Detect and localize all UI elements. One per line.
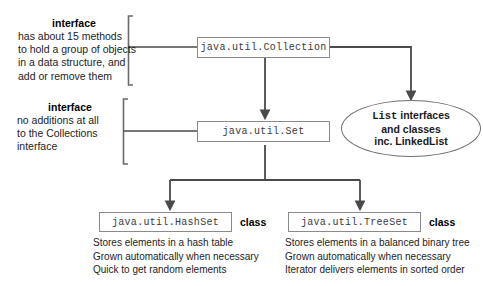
list-cloud-line-2: and classes (381, 123, 441, 136)
node-java-util-collection-label: java.util.Collection (200, 42, 326, 53)
node-java-util-hashset[interactable]: java.util.HashSet (99, 212, 232, 232)
list-cloud-mono-word: List (372, 110, 397, 122)
node-java-util-treeset-label: java.util.TreeSet (301, 217, 408, 228)
treeset-kind-label: class (429, 216, 455, 228)
collection-annotation: interface has about 15 methods to hold a… (18, 16, 130, 83)
node-java-util-hashset-label: java.util.HashSet (112, 217, 219, 228)
set-annotation-line-3: interface (17, 140, 123, 153)
node-java-util-collection[interactable]: java.util.Collection (197, 37, 330, 58)
list-cloud-line-1-rest: interfaces (400, 109, 450, 121)
collection-annotation-line-2: to hold a group of objects (18, 43, 130, 56)
node-java-util-treeset[interactable]: java.util.TreeSet (288, 212, 421, 232)
collection-annotation-body: has about 15 methods to hold a group of … (18, 30, 130, 83)
treeset-description: Stores elements in a balanced binary tre… (285, 236, 470, 277)
collections-diagram: interface has about 15 methods to hold a… (0, 0, 483, 286)
hashset-description-line-3: Quick to get random elements (93, 263, 259, 277)
set-annotation-title: interface (17, 100, 123, 114)
collection-annotation-line-3: in a data structure, and (18, 56, 130, 69)
list-cloud-line-3: inc. LinkedList (374, 135, 448, 148)
treeset-description-line-3: Iterator delivers elements in sorted ord… (285, 263, 470, 277)
list-cloud-line-1: List interfaces (372, 109, 450, 123)
node-java-util-set-label: java.util.Set (223, 126, 305, 137)
hashset-description-line-1: Stores elements in a hash table (93, 236, 259, 250)
set-annotation-line-1: no additions at all (17, 114, 123, 127)
node-list-interfaces-cloud[interactable]: List interfaces and classes inc. LinkedL… (341, 100, 481, 157)
hashset-description: Stores elements in a hash table Grown au… (93, 236, 259, 277)
set-annotation-body: no additions at all to the Collections i… (17, 114, 123, 154)
hashset-description-line-2: Grown automatically when necessary (93, 250, 259, 264)
node-java-util-set[interactable]: java.util.Set (197, 121, 330, 142)
collection-annotation-line-1: has about 15 methods (18, 30, 130, 43)
set-bracket (124, 99, 198, 164)
treeset-description-line-1: Stores elements in a balanced binary tre… (285, 236, 470, 250)
hashset-kind-label: class (240, 216, 266, 228)
set-annotation: interface no additions at all to the Col… (17, 100, 123, 154)
collection-annotation-title: interface (18, 16, 130, 30)
collection-bracket (129, 16, 198, 85)
edge-collection-to-list (330, 47, 411, 98)
set-annotation-line-2: to the Collections (17, 127, 123, 140)
collection-annotation-line-4: add or remove them (18, 70, 130, 83)
treeset-description-line-2: Grown automatically when necessary (285, 250, 470, 264)
